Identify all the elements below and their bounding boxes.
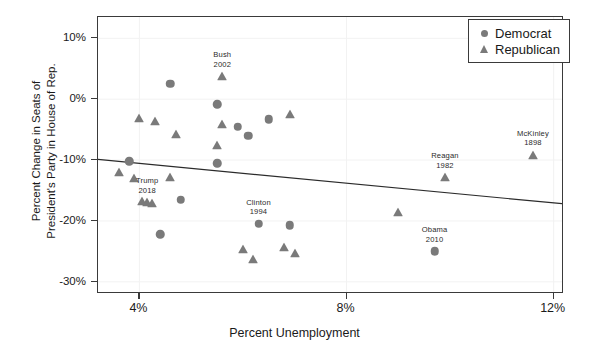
data-point-republican[interactable]: [114, 167, 124, 176]
annotation-year: 2018: [136, 186, 158, 196]
legend[interactable]: Democrat Republican: [468, 19, 570, 63]
point-annotation: Trump2018: [136, 176, 158, 195]
annotation-name: Reagan: [431, 151, 459, 161]
y-axis-title-line1: Percent Change in Seats of: [29, 21, 44, 281]
data-point-democrat[interactable]: [177, 195, 186, 204]
data-point-democrat[interactable]: [265, 115, 274, 124]
data-point-republican[interactable]: [134, 114, 144, 123]
legend-item-republican[interactable]: Republican: [476, 41, 560, 57]
data-point-democrat[interactable]: [166, 80, 175, 89]
data-point-republican[interactable]: [165, 172, 175, 181]
y-axis-tick: [91, 37, 97, 38]
annotation-year: 1898: [517, 138, 549, 148]
y-axis-title: Percent Change in Seats of President's P…: [29, 21, 59, 281]
data-point-democrat[interactable]: [244, 131, 253, 140]
x-axis-tick: [553, 293, 554, 299]
data-point-republican[interactable]: [171, 130, 181, 139]
scatter-plot-figure: Bush2002Trump2018Clinton1994Reagan1982Mc…: [0, 0, 589, 354]
data-point-democrat[interactable]: [213, 100, 222, 109]
data-point-republican[interactable]: [217, 120, 227, 129]
circle-marker-icon: [476, 30, 492, 37]
y-axis-tick: [91, 281, 97, 282]
data-point-republican[interactable]: [147, 198, 157, 207]
data-point-republican[interactable]: [528, 150, 538, 159]
data-point-republican[interactable]: [290, 249, 300, 258]
y-axis-title-line2: President's Party in House of Rep.: [44, 21, 59, 281]
annotation-year: 1982: [431, 161, 459, 171]
annotation-name: Trump: [136, 176, 158, 186]
legend-label-democrat: Democrat: [495, 26, 551, 41]
point-annotation: Obama2010: [422, 225, 448, 244]
data-point-republican[interactable]: [393, 207, 403, 216]
x-axis-tick-label: 8%: [336, 301, 354, 315]
legend-label-republican: Republican: [495, 42, 560, 57]
point-annotation: Reagan1982: [431, 151, 459, 170]
point-annotation: McKinley1898: [517, 129, 549, 148]
triangle-marker-icon: [476, 45, 492, 53]
x-axis-tick: [346, 293, 347, 299]
trend-line: [98, 159, 562, 203]
data-point-republican[interactable]: [279, 242, 289, 251]
x-axis-title: Percent Unemployment: [0, 326, 589, 340]
data-point-republican[interactable]: [238, 244, 248, 253]
data-point-republican[interactable]: [212, 140, 222, 149]
y-axis-tick: [91, 98, 97, 99]
annotation-name: McKinley: [517, 129, 549, 139]
y-axis-tick: [91, 220, 97, 221]
data-point-republican[interactable]: [285, 110, 295, 119]
annotation-year: 1994: [246, 207, 271, 217]
data-point-democrat[interactable]: [125, 157, 134, 166]
data-point-republican[interactable]: [150, 117, 160, 126]
data-point-democrat[interactable]: [213, 159, 222, 168]
legend-item-democrat[interactable]: Democrat: [476, 25, 560, 41]
data-point-republican[interactable]: [248, 255, 258, 264]
annotation-name: Bush: [213, 50, 231, 60]
data-point-democrat[interactable]: [430, 247, 439, 256]
data-point-democrat[interactable]: [285, 221, 294, 230]
data-point-democrat[interactable]: [156, 230, 165, 239]
annotation-name: Obama: [422, 225, 448, 235]
point-annotation: Bush2002: [213, 50, 231, 69]
annotation-year: 2002: [213, 60, 231, 70]
y-axis-tick: [91, 159, 97, 160]
annotation-name: Clinton: [246, 198, 271, 208]
annotation-year: 2010: [422, 235, 448, 245]
data-point-republican[interactable]: [217, 72, 227, 81]
data-point-democrat[interactable]: [234, 122, 243, 131]
point-annotation: Clinton1994: [246, 198, 271, 217]
x-axis-tick-label: 4%: [129, 301, 147, 315]
x-axis-tick-label: 12%: [540, 301, 565, 315]
data-point-republican[interactable]: [440, 173, 450, 182]
data-point-democrat[interactable]: [254, 220, 263, 229]
x-axis-tick: [138, 293, 139, 299]
